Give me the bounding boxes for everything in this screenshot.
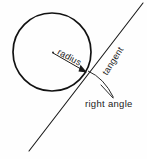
diagram-canvas	[0, 0, 147, 159]
center-dot	[52, 52, 54, 54]
tangent-line	[29, 3, 143, 151]
right-angle-label: right angle	[85, 99, 133, 109]
circle-shape	[13, 13, 91, 91]
geometry-diagram: radius tangent right angle	[0, 0, 147, 159]
radius-arrowhead	[79, 65, 88, 73]
